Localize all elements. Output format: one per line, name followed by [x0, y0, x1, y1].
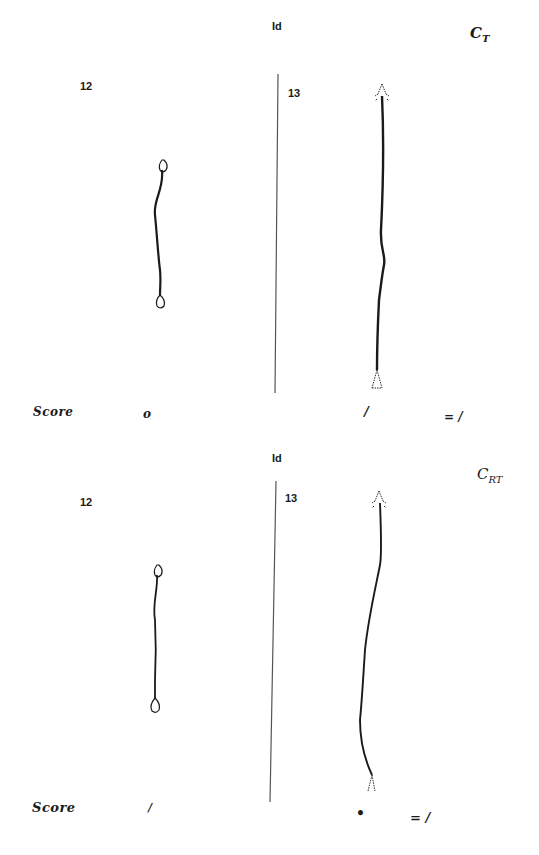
score-total: = /: [410, 810, 430, 825]
short-line-loop-figure: [151, 565, 162, 712]
score-left-item: /: [148, 801, 152, 814]
score-label: Score: [32, 800, 76, 815]
figures-bottom: [0, 0, 539, 855]
divider-line: [270, 481, 276, 802]
score-right-item: •: [356, 805, 365, 821]
long-line-arrow-figure: [360, 491, 386, 791]
